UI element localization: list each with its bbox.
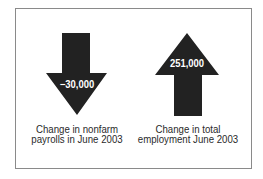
caption-line-2: employment June 2003 <box>137 134 238 144</box>
down-arrow-value: −30,000 <box>50 79 104 90</box>
down-arrow-icon <box>46 33 107 115</box>
up-arrow-icon <box>155 33 219 116</box>
arrows-graphic <box>0 0 263 179</box>
caption-line-2: payrolls in June 2003 <box>26 134 127 144</box>
down-arrow-caption: Change in nonfarm payrolls in June 2003 <box>26 124 127 144</box>
up-arrow-caption: Change in total employment June 2003 <box>137 124 238 144</box>
up-arrow-value: 251,000 <box>160 58 214 69</box>
